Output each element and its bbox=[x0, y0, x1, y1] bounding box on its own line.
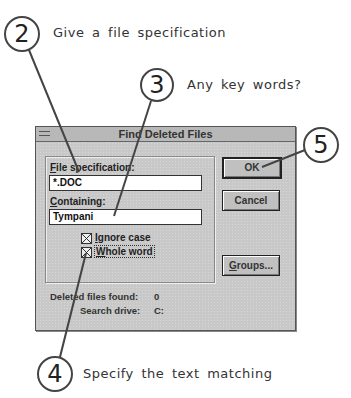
callout-2-text: Give a file specification bbox=[53, 25, 226, 40]
containing-label: Containing: bbox=[50, 196, 106, 207]
callout-4-text: Specify the text matching bbox=[83, 366, 272, 381]
callout-3-number: 3 bbox=[142, 70, 172, 100]
callout-2-number: 2 bbox=[7, 19, 37, 49]
file-spec-label: File specification: bbox=[50, 162, 134, 173]
title-bar: Find Deleted Files bbox=[36, 127, 295, 142]
file-spec-input[interactable]: *.DOC bbox=[49, 175, 202, 191]
deleted-files-found-value: 0 bbox=[154, 291, 159, 302]
ignore-case-checkbox[interactable] bbox=[81, 233, 92, 244]
cancel-button[interactable]: Cancel bbox=[222, 190, 280, 211]
check-x-icon bbox=[82, 248, 91, 257]
groups-button[interactable]: Groups... bbox=[222, 255, 280, 276]
whole-word-checkbox[interactable] bbox=[81, 247, 92, 258]
whole-word-label[interactable]: Whole word bbox=[94, 245, 155, 258]
ignore-case-label[interactable]: Ignore case bbox=[95, 232, 151, 243]
search-drive-label: Search drive: bbox=[80, 305, 140, 316]
find-deleted-files-dialog: Find Deleted Files File specification: *… bbox=[35, 126, 296, 331]
ok-button[interactable]: OK bbox=[222, 157, 282, 179]
check-x-icon bbox=[82, 234, 91, 243]
deleted-files-found-label: Deleted files found: bbox=[50, 291, 138, 302]
dialog-title: Find Deleted Files bbox=[36, 127, 295, 141]
containing-input[interactable]: Tympani bbox=[49, 209, 202, 225]
search-drive-value: C: bbox=[154, 305, 164, 316]
callout-3-text: Any key words? bbox=[187, 77, 301, 92]
callout-5-number: 5 bbox=[306, 130, 336, 160]
callout-4-number: 4 bbox=[40, 359, 70, 389]
